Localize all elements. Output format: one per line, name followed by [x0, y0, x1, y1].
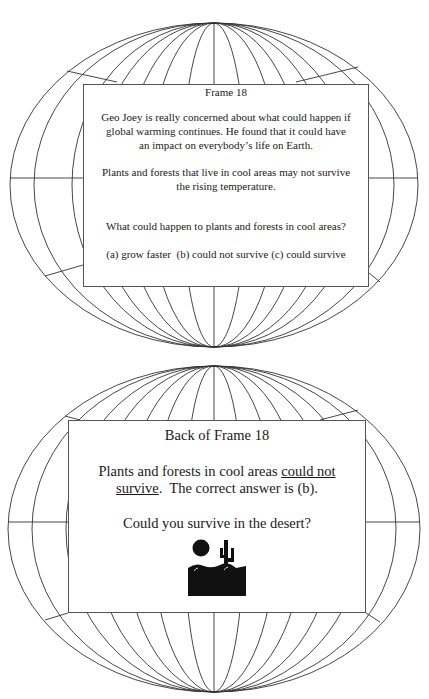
answer-explanation: Plants and forests in cool areas could n…	[69, 463, 365, 497]
frame-card-front: Frame 18 Geo Joey is really concerned ab…	[83, 84, 369, 287]
back-frame-title: Back of Frame 18	[69, 427, 365, 444]
fact-line: the rising temperature.	[84, 179, 368, 193]
frame-title: Frame 18	[84, 85, 368, 99]
frame-card-back: Back of Frame 18 Plants and forests in c…	[68, 420, 366, 613]
intro-line: global warming continues. He found that …	[84, 124, 368, 138]
intro-paragraph: Geo Joey is really concerned about what …	[84, 110, 368, 152]
question-text: What could happen to plants and forests …	[84, 219, 368, 233]
answer-emphasis: survive	[116, 480, 159, 496]
answer-options: (a) grow faster (b) could not survive (c…	[84, 247, 368, 261]
followup-question: Could you survive in the desert?	[69, 515, 365, 532]
fact-paragraph: Plants and forests that live in cool are…	[84, 165, 368, 193]
intro-line: an impact on everybody’s life on Earth.	[84, 138, 368, 152]
intro-line: Geo Joey is really concerned about what …	[84, 110, 368, 124]
answer-emphasis: could not	[281, 463, 335, 479]
answer-text: . The correct answer is (b).	[159, 480, 318, 496]
fact-line: Plants and forests that live in cool are…	[84, 165, 368, 179]
answer-text: Plants and forests in cool areas	[98, 463, 281, 479]
desert-sun-cactus-icon	[186, 538, 248, 596]
